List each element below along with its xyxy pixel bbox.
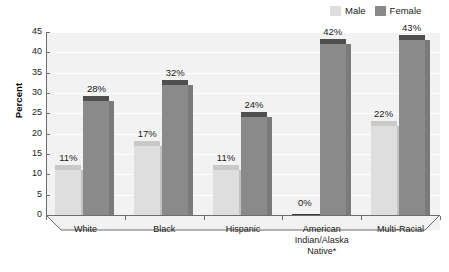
bar-top-face <box>83 96 109 101</box>
bar-top-face <box>320 39 346 44</box>
bar-front-face <box>371 126 397 215</box>
bar-top-face <box>55 165 81 170</box>
x-axis-line <box>46 215 440 216</box>
x-tick-mark <box>46 216 47 220</box>
bar-male[interactable] <box>213 170 239 215</box>
x-tick-mark <box>440 216 441 220</box>
y-tick-label: 30 <box>14 88 42 97</box>
x-tick-mark <box>125 216 126 220</box>
bar-side-face <box>346 44 351 215</box>
bar-top-face <box>162 80 188 85</box>
bar-front-face <box>162 85 188 215</box>
bar-front-face <box>213 170 239 215</box>
gridline <box>46 52 440 53</box>
legend-item-male: Male <box>330 6 366 16</box>
y-tick-mark <box>46 134 50 135</box>
legend-swatch-female-icon <box>375 6 386 16</box>
y-tick-label: 45 <box>14 27 42 36</box>
bar-female[interactable] <box>320 44 346 215</box>
y-tick-label: 10 <box>14 169 42 178</box>
x-category-label-line: Indian/Alaska <box>272 235 371 246</box>
bar-value-label: 28% <box>77 84 115 94</box>
x-tick-mark <box>282 216 283 220</box>
bar-side-face <box>188 85 193 215</box>
bar-male[interactable] <box>134 146 160 215</box>
bar-front-face <box>55 170 81 215</box>
bar-value-label: 11% <box>207 153 245 163</box>
y-tick-label: 5 <box>14 190 42 199</box>
y-tick-label: 0 <box>14 210 42 219</box>
bar-value-label: 11% <box>49 153 87 163</box>
x-tick-mark <box>361 216 362 220</box>
bar-value-label: 43% <box>393 23 431 33</box>
bar-chart: Male Female Percent 454035302520151050 1… <box>0 0 449 272</box>
chart-legend: Male Female <box>330 6 421 16</box>
bar-female[interactable] <box>162 85 188 215</box>
legend-item-female: Female <box>375 6 422 16</box>
legend-label-female: Female <box>390 6 422 16</box>
y-tick-mark <box>46 93 50 94</box>
bar-value-label: 24% <box>235 100 273 110</box>
legend-label-male: Male <box>345 6 366 16</box>
y-tick-mark <box>46 113 50 114</box>
plot-area: 11%28%17%32%11%24%0%42%22%43% <box>46 32 440 215</box>
x-tick-mark <box>204 216 205 220</box>
bar-top-face <box>134 141 160 146</box>
bar-female[interactable] <box>399 40 425 215</box>
gridline <box>46 73 440 74</box>
bar-female[interactable] <box>241 117 267 215</box>
y-tick-label: 40 <box>14 47 42 56</box>
gridline <box>46 32 440 33</box>
y-tick-mark <box>46 73 50 74</box>
bar-front-face <box>241 117 267 215</box>
legend-swatch-male-icon <box>330 6 341 16</box>
y-tick-label: 25 <box>14 108 42 117</box>
x-category-label: Multi-Racial <box>351 224 449 235</box>
bar-top-face <box>399 35 425 40</box>
y-tick-label: 35 <box>14 68 42 77</box>
bar-top-face <box>213 165 239 170</box>
x-category-label-line: Multi-Racial <box>351 224 449 235</box>
bar-value-label: 17% <box>128 129 166 139</box>
bar-female[interactable] <box>83 101 109 215</box>
y-tick-mark <box>46 195 50 196</box>
bar-front-face <box>134 146 160 215</box>
y-tick-mark <box>46 32 50 33</box>
bar-value-label: 0% <box>286 198 324 208</box>
bar-side-face <box>267 117 272 215</box>
bar-side-face <box>425 40 430 215</box>
x-category-label-line: Native* <box>272 246 371 257</box>
bar-value-label: 22% <box>365 109 403 119</box>
bar-front-face <box>320 44 346 215</box>
bar-side-face <box>109 101 114 215</box>
y-tick-label: 20 <box>14 129 42 138</box>
y-tick-label: 15 <box>14 149 42 158</box>
y-axis-line <box>46 32 47 216</box>
bar-top-face <box>241 112 267 117</box>
bar-front-face <box>83 101 109 215</box>
y-tick-mark <box>46 174 50 175</box>
bar-male[interactable] <box>55 170 81 215</box>
bar-value-label: 32% <box>156 68 194 78</box>
y-tick-mark <box>46 52 50 53</box>
bar-value-label: 42% <box>314 27 352 37</box>
bar-top-face <box>371 121 397 126</box>
bar-front-face <box>399 40 425 215</box>
bar-male[interactable] <box>371 126 397 215</box>
y-tick-mark <box>46 154 50 155</box>
